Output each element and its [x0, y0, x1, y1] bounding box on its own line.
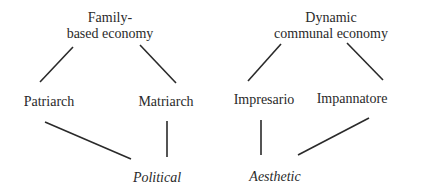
dynamic-line1: Dynamic	[274, 10, 388, 26]
impresario-node: Impresario	[234, 92, 295, 108]
political-outcome: Political	[133, 170, 181, 186]
family-based-economy-node: Family- based economy	[67, 10, 154, 42]
edge-dynamic-impannatore	[347, 43, 383, 80]
family-line2: based economy	[67, 26, 154, 42]
aesthetic-outcome: Aesthetic	[249, 169, 300, 185]
edge-impannatore-aesthetic	[298, 118, 369, 155]
edge-family-patriarch	[40, 47, 73, 82]
edge-family-matriarch	[140, 45, 176, 83]
matriarch-node: Matriarch	[138, 94, 193, 110]
family-line1: Family-	[67, 10, 154, 26]
impannatore-node: Impannatore	[317, 91, 388, 107]
edge-patriarch-political	[45, 122, 131, 159]
edge-dynamic-impresario	[248, 44, 281, 81]
dynamic-line2: communal economy	[274, 26, 388, 42]
dynamic-communal-economy-node: Dynamic communal economy	[274, 10, 388, 42]
patriarch-node: Patriarch	[24, 94, 75, 110]
